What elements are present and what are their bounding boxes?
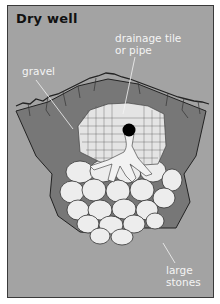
- dry-well-diagram: Dry well drainage tile or pipe gravel la…: [7, 5, 214, 298]
- stones-label-line1: large: [166, 264, 193, 276]
- pipe-label-line1: drainage tile: [115, 32, 181, 44]
- gravel-label: gravel: [22, 65, 55, 77]
- diagram-title: Dry well: [16, 11, 78, 26]
- dry-well-illustration: [8, 6, 213, 297]
- drainage-pipe: [123, 124, 136, 137]
- large-stones: [60, 160, 182, 245]
- stones-label-line2: stones: [166, 276, 201, 288]
- pipe-label-line2: or pipe: [115, 44, 152, 56]
